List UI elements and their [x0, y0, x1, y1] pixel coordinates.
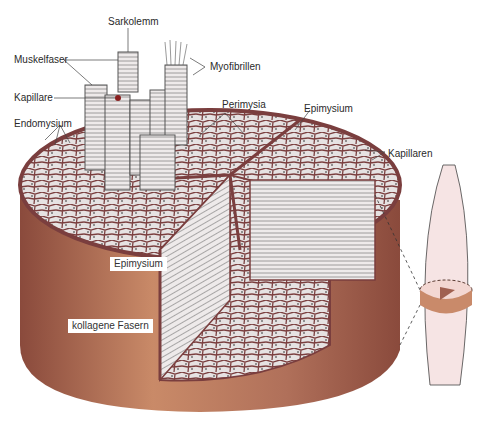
label-perimysia: Perimysia — [222, 99, 266, 111]
inset-muscle — [420, 165, 472, 385]
label-myofibrillen: Myofibrillen — [210, 61, 261, 73]
label-epimysium-side: Epimysium — [110, 257, 167, 271]
label-sarkolemm: Sarkolemm — [108, 16, 159, 28]
label-epimysium-top: Epimysium — [304, 103, 353, 115]
label-kollagene-fasern: kollagene Fasern — [68, 319, 153, 333]
fiber-bundle — [85, 40, 187, 190]
label-muskelfaser: Muskelfaser — [14, 54, 68, 66]
label-endomysium: Endomysium — [14, 118, 72, 130]
myofibril-strands — [165, 40, 187, 65]
cutaway-fibers — [250, 180, 375, 280]
label-kapillaren: Kapillaren — [388, 148, 432, 160]
capillary — [115, 95, 121, 101]
label-kapillare: Kapillare — [14, 92, 53, 104]
